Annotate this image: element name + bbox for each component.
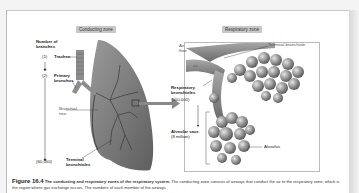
conducting-zone-header: Conducting zone xyxy=(76,26,116,33)
terminal-bronchioles-label: Terminal bronchioles xyxy=(66,158,96,168)
figure-caption: Figure 16.4 The conducting and respirato… xyxy=(12,177,342,191)
air-flow-label: Air flow xyxy=(179,44,193,54)
terminal-bronchioles-count: (60,000) xyxy=(36,160,52,165)
figure-title: The conducting and respiratory zones of … xyxy=(45,179,170,184)
number-of-branches-label: Number of branches xyxy=(36,40,66,50)
primary-bronchus-label: Primary bronchus xyxy=(54,74,76,84)
alveolus-label: Alveolus xyxy=(264,145,280,150)
respiratory-bronchioles-count: (500,000) xyxy=(171,98,189,103)
trachea-count: (1) xyxy=(42,55,47,60)
bronchial-tree-label: Bronchial tree xyxy=(59,107,79,117)
terminal-bronchiole-label: Terminal bronchiole xyxy=(268,43,305,48)
trachea-label: Trachea xyxy=(54,55,70,60)
primary-bronchus-count: (2) xyxy=(42,74,47,79)
alveolar-sacs-count: (8 million) xyxy=(171,135,190,140)
respiratory-zone-header: Respiratory zone xyxy=(222,26,262,33)
respiratory-bronchioles-label: Respiratory bronchioles xyxy=(171,86,201,96)
figure-number: Figure 16.4 xyxy=(12,178,44,184)
respiratory-zone-frame xyxy=(184,42,320,172)
lung-illustration xyxy=(72,40,153,171)
